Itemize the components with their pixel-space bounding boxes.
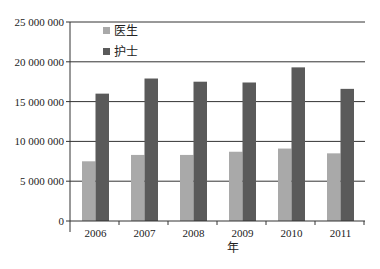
- bar-doctor-2007: [131, 155, 145, 221]
- legend-marker-doctor: [103, 27, 110, 34]
- bar-doctor-2011: [327, 153, 341, 221]
- x-tick-label: 2008: [183, 227, 206, 239]
- bar-nurse-2010: [292, 67, 306, 221]
- x-tick-label: 2011: [330, 227, 352, 239]
- bars: [82, 67, 354, 221]
- bar-doctor-2008: [180, 155, 194, 221]
- x-axis-ticks: 200620072008200920102011: [85, 221, 365, 239]
- bar-doctor-2009: [229, 152, 243, 221]
- legend-marker-nurse: [103, 48, 110, 55]
- bar-doctor-2010: [278, 149, 292, 221]
- bar-nurse-2011: [341, 89, 355, 221]
- bar-nurse-2006: [96, 94, 110, 221]
- y-axis-ticks: 05 000 00010 000 00015 000 00020 000 000…: [15, 16, 71, 227]
- bar-nurse-2007: [145, 79, 159, 221]
- y-tick-label: 10 000 000: [15, 135, 65, 147]
- bar-doctor-2006: [82, 161, 96, 221]
- x-axis-title: 年: [227, 241, 239, 255]
- bar-nurse-2009: [243, 82, 257, 221]
- y-tick-label: 0: [59, 215, 65, 227]
- x-tick-label: 2009: [232, 227, 255, 239]
- x-tick-label: 2006: [85, 227, 108, 239]
- legend-label-doctor: 医生: [114, 24, 138, 38]
- x-tick-label: 2007: [134, 227, 157, 239]
- legend: 医生护士: [103, 24, 138, 59]
- y-tick-label: 25 000 000: [15, 16, 65, 28]
- bar-chart: 05 000 00010 000 00015 000 00020 000 000…: [0, 0, 380, 269]
- x-tick-label: 2010: [281, 227, 304, 239]
- legend-label-nurse: 护士: [114, 45, 138, 59]
- y-tick-label: 15 000 000: [15, 96, 65, 108]
- y-tick-label: 5 000 000: [20, 175, 65, 187]
- y-tick-label: 20 000 000: [15, 56, 65, 68]
- bar-nurse-2008: [194, 82, 208, 221]
